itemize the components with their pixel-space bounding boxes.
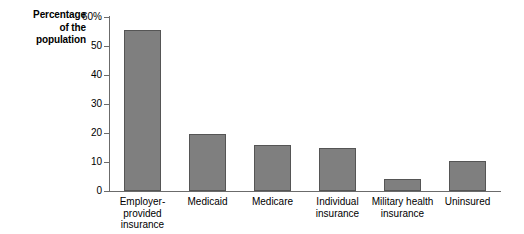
y-tick-mark <box>104 104 109 105</box>
y-tick-mark <box>104 17 109 18</box>
y-tick-mark <box>104 46 109 47</box>
bar <box>189 134 226 191</box>
y-tick-label: 40 <box>32 70 102 80</box>
y-tick-mark <box>104 133 109 134</box>
bar <box>449 161 486 191</box>
y-tick-mark <box>104 75 109 76</box>
y-tick-label: 10 <box>32 157 102 167</box>
x-axis-category-label: Uninsured <box>429 196 507 208</box>
y-tick-label: 60% <box>32 12 102 22</box>
bar <box>384 179 421 191</box>
y-tick-mark <box>104 162 109 163</box>
x-axis-line <box>109 191 501 192</box>
bar <box>124 30 161 191</box>
y-tick-label: 0 <box>32 186 102 196</box>
bar <box>319 148 356 192</box>
bar <box>254 145 291 191</box>
y-axis-title-line-2: of the <box>2 22 86 35</box>
y-tick-label: 20 <box>32 128 102 138</box>
x-axis-category-label-line: Uninsured <box>429 196 507 208</box>
y-tick-label: 30 <box>32 99 102 109</box>
bar-chart: Percentage of the population 60%50403020… <box>0 0 524 234</box>
y-tick-label: 50 <box>32 41 102 51</box>
y-tick-mark <box>104 191 109 192</box>
plot-area <box>110 17 500 191</box>
x-axis-category-label-line: insurance <box>364 208 442 220</box>
x-axis-category-label-line: insurance <box>104 219 182 231</box>
